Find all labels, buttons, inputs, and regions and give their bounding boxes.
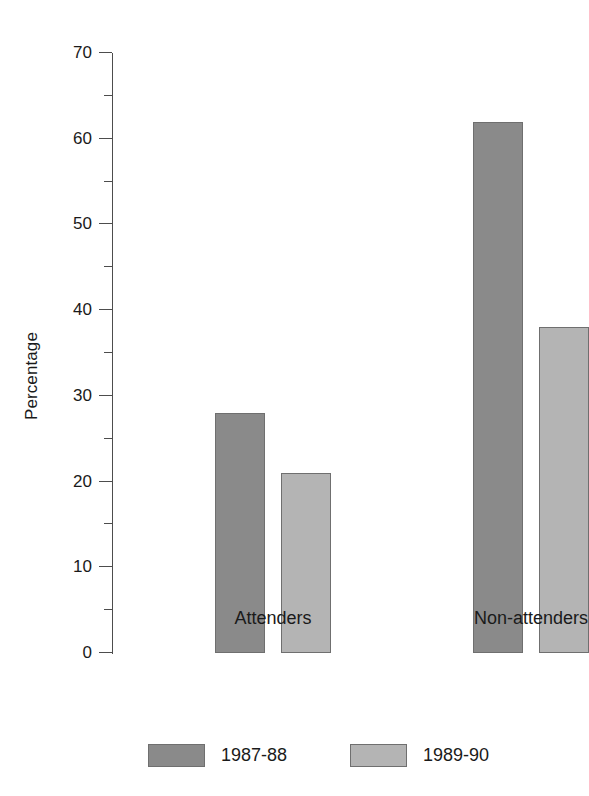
y-tick-major: 30 — [99, 395, 112, 396]
y-tick-minor — [104, 266, 112, 267]
category-label-attenders: Attenders — [234, 608, 311, 629]
y-tick-major: 50 — [99, 223, 112, 224]
y-axis-line — [112, 53, 113, 654]
y-tick-label: 70 — [73, 44, 92, 61]
legend-swatch-1989-90 — [350, 744, 407, 767]
legend-swatch-1987-88 — [148, 744, 205, 767]
bar-1987-88-Non-attenders — [473, 122, 523, 653]
y-tick-major: 20 — [99, 481, 112, 482]
y-tick-label: 10 — [73, 558, 92, 575]
y-tick-minor — [104, 352, 112, 353]
y-tick-minor — [104, 438, 112, 439]
plot-area: 010203040506070 — [112, 53, 532, 653]
chart-legend: 1987-881989-90 — [0, 742, 556, 772]
legend-item-1987-88: 1987-88 — [148, 742, 287, 768]
y-tick-label: 0 — [83, 644, 92, 661]
y-tick-label: 50 — [73, 215, 92, 232]
category-label-non-attenders: Non-attenders — [474, 608, 588, 629]
y-tick-label: 20 — [73, 472, 92, 489]
y-tick-major: 40 — [99, 309, 112, 310]
bar-1989-90-Non-attenders — [539, 327, 589, 653]
y-tick-minor — [104, 609, 112, 610]
y-tick-major: 60 — [99, 138, 112, 139]
y-tick-major: 0 — [99, 652, 112, 653]
y-tick-major: 70 — [99, 52, 112, 53]
legend-item-1989-90: 1989-90 — [350, 742, 489, 768]
legend-label-1989-90: 1989-90 — [423, 746, 489, 764]
y-tick-label: 30 — [73, 386, 92, 403]
y-tick-minor — [104, 523, 112, 524]
legend-label-1987-88: 1987-88 — [221, 746, 287, 764]
y-tick-minor — [104, 181, 112, 182]
y-tick-label: 60 — [73, 129, 92, 146]
y-tick-major: 10 — [99, 566, 112, 567]
y-tick-label: 40 — [73, 301, 92, 318]
y-tick-minor — [104, 95, 112, 96]
y-axis-title: Percentage — [22, 190, 48, 420]
